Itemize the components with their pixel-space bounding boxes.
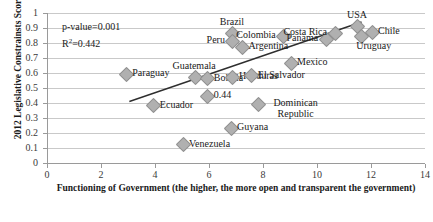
y-axis-tick-label: 0.9 bbox=[0, 23, 38, 33]
x-axis-tick bbox=[47, 164, 48, 168]
data-point-label: Colombia bbox=[236, 29, 275, 40]
gridline bbox=[47, 103, 425, 104]
scatter-chart: 2012 Legislative Constrainsts Score 00.1… bbox=[0, 0, 433, 222]
gridline bbox=[47, 13, 425, 14]
x-axis-tick-label: 6 bbox=[194, 170, 224, 180]
data-point-label: Uruguay bbox=[356, 40, 391, 51]
data-point-label: Venezuela bbox=[189, 138, 230, 149]
y-axis-line bbox=[47, 13, 48, 164]
data-point-label: Chile bbox=[378, 25, 400, 36]
statistics-annotation: p-value=0.001 R2=0.442 bbox=[62, 20, 120, 51]
p-value-text: p-value=0.001 bbox=[62, 20, 120, 34]
x-axis-tick bbox=[371, 164, 372, 168]
x-axis-tick bbox=[263, 164, 264, 168]
gridline bbox=[47, 88, 425, 89]
y-axis-tick-label: 0.4 bbox=[0, 98, 38, 108]
y-axis-tick-label: 0.8 bbox=[0, 38, 38, 48]
x-axis-tick bbox=[101, 164, 102, 168]
data-point-label: Costa Rica bbox=[283, 26, 327, 37]
x-axis-title: Functioning of Government (the higher, t… bbox=[47, 182, 425, 194]
x-axis-tick-label: 14 bbox=[410, 170, 433, 180]
gridline bbox=[47, 148, 425, 149]
x-axis-tick-label: 12 bbox=[356, 170, 386, 180]
data-point-label: Ecuador bbox=[160, 99, 193, 110]
data-point-label: Mexico bbox=[297, 56, 328, 67]
r-squared-text: R2=0.442 bbox=[62, 34, 120, 51]
y-axis-tick-label: 0.3 bbox=[0, 113, 38, 123]
data-point-label: Guyana bbox=[237, 121, 268, 132]
x-axis-tick bbox=[155, 164, 156, 168]
x-axis-tick-label: 4 bbox=[140, 170, 170, 180]
gridline bbox=[47, 118, 425, 119]
x-axis-tick bbox=[317, 164, 318, 168]
data-point-label: Peru bbox=[207, 34, 225, 45]
y-axis-tick-label: 0.1 bbox=[0, 143, 38, 153]
r-squared-prefix: R bbox=[62, 38, 69, 49]
x-axis-tick bbox=[425, 164, 426, 168]
r-squared-value: =0.442 bbox=[72, 38, 100, 49]
y-axis-tick-label: 0.5 bbox=[0, 83, 38, 93]
data-point-label: USA bbox=[347, 9, 367, 20]
data-point-label: El Salvador bbox=[258, 69, 305, 80]
y-axis-tick-label: 0.6 bbox=[0, 68, 38, 78]
x-axis-tick-label: 8 bbox=[248, 170, 278, 180]
y-axis-tick-label: 1 bbox=[0, 8, 38, 18]
data-point-label: Dominican Republic bbox=[265, 97, 327, 119]
data-point-label: Paraguay bbox=[132, 67, 169, 78]
gridline bbox=[47, 58, 425, 59]
x-axis-line bbox=[47, 163, 425, 164]
gridline bbox=[47, 133, 425, 134]
x-axis-tick-label: 0 bbox=[32, 170, 62, 180]
y-axis-tick-label: 0.2 bbox=[0, 128, 38, 138]
y-axis-tick-label: 0 bbox=[0, 158, 38, 168]
y-axis-tick-label: 0.7 bbox=[0, 53, 38, 63]
data-point-label: Brazil bbox=[220, 16, 244, 27]
data-point-value-label: 0.44 bbox=[214, 89, 232, 100]
x-axis-tick-label: 10 bbox=[302, 170, 332, 180]
data-point-label: Guatemala bbox=[172, 60, 215, 71]
x-axis-tick-label: 2 bbox=[86, 170, 116, 180]
x-axis-tick bbox=[209, 164, 210, 168]
